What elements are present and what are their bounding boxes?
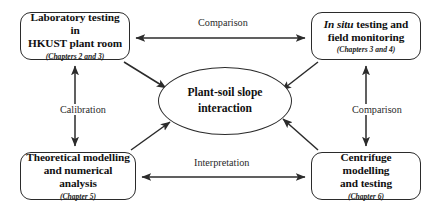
- node-title: Centrifuge modelling and testing: [312, 151, 420, 191]
- node-title: In situ testing and field monitoring: [320, 18, 412, 44]
- node-subtitle: (Chapter 6): [348, 192, 384, 201]
- hub-title-line2: interaction: [198, 101, 252, 117]
- node-laboratory-testing[interactable]: Laboratory testing in HKUST plant room (…: [20, 12, 130, 60]
- edge-label-calibration-left: Calibration: [58, 104, 108, 115]
- node-in-situ-testing[interactable]: In situ testing and field monitoring (Ch…: [311, 12, 421, 60]
- node-centrifuge-modelling[interactable]: Centrifuge modelling and testing (Chapte…: [311, 152, 421, 200]
- node-subtitle: (Chapters 2 and 3): [46, 52, 104, 61]
- node-title-italic: In situ: [324, 18, 354, 30]
- node-theoretical-modelling[interactable]: Theoretical modelling and numerical anal…: [20, 152, 136, 200]
- edge-label-comparison-top: Comparison: [196, 17, 250, 28]
- hub-title-line1: Plant-soil slope: [187, 85, 262, 101]
- node-title: Laboratory testing in HKUST plant room: [21, 11, 129, 51]
- node-subtitle: (Chapter 5): [60, 192, 96, 201]
- diagram-canvas: Laboratory testing in HKUST plant room (…: [0, 0, 441, 210]
- edge-theory-to-hub: [131, 122, 170, 150]
- edge-insitu-to-hub: [282, 62, 318, 90]
- node-title: Theoretical modelling and numerical anal…: [21, 151, 135, 191]
- node-subtitle: (Chapters 3 and 4): [337, 45, 395, 54]
- hub-plant-soil-slope-interaction[interactable]: Plant-soil slope interaction: [158, 67, 292, 135]
- edge-lab-to-hub: [124, 62, 166, 88]
- edge-centrifuge-to-hub: [283, 119, 318, 150]
- edge-label-interpretation-bottom: Interpretation: [192, 157, 251, 168]
- edge-label-comparison-right: Comparison: [350, 104, 404, 115]
